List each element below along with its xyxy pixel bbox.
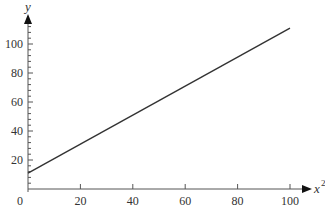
plot-area — [28, 28, 290, 173]
x-axis-arrow-icon — [302, 185, 312, 193]
x-tick-label: 100 — [281, 194, 299, 208]
y-axis-label: y — [23, 0, 31, 14]
x-tick-label: 0 — [17, 194, 23, 208]
axes: 02040608010020406080100yx2 — [5, 0, 325, 208]
data-line — [28, 28, 290, 173]
y-axis-arrow-icon — [24, 14, 32, 24]
x-axis-label: x — [313, 181, 320, 196]
x-tick-label: 40 — [127, 194, 139, 208]
y-tick-label: 60 — [11, 95, 23, 109]
x-axis-label-superscript: 2 — [321, 178, 325, 188]
x-tick-label: 20 — [74, 194, 86, 208]
chart: 02040608010020406080100yx2 — [0, 0, 325, 208]
x-tick-label: 80 — [232, 194, 244, 208]
y-tick-label: 80 — [11, 66, 23, 80]
x-tick-label: 60 — [179, 194, 191, 208]
y-tick-label: 40 — [11, 124, 23, 138]
y-tick-label: 20 — [11, 153, 23, 167]
y-tick-label: 100 — [5, 37, 23, 51]
